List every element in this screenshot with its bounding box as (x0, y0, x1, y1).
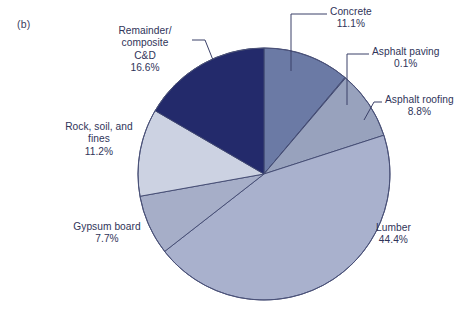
label-gypsum-board-value: 7.7% (59, 233, 155, 245)
pie-slices (138, 48, 390, 300)
label-asphalt-paving: Asphalt paving 0.1% (372, 46, 440, 71)
label-asphalt-roofing: Asphalt roofing 8.8% (385, 94, 454, 119)
label-asphalt-roofing-value: 8.8% (385, 106, 454, 118)
label-lumber: Lumber 44.4% (376, 222, 411, 247)
label-asphalt-paving-name: Asphalt paving (372, 46, 440, 58)
label-rock-soil-fines: Rock, soil, and fines 11.2% (47, 121, 151, 158)
label-gypsum-board-name: Gypsum board (59, 221, 155, 233)
label-remainder-value: 16.6% (96, 62, 194, 74)
label-remainder-line2: composite (96, 37, 194, 49)
label-concrete-value: 11.1% (330, 18, 372, 30)
label-asphalt-roofing-name: Asphalt roofing (385, 94, 454, 106)
label-lumber-value: 44.4% (376, 234, 411, 246)
label-gypsum-board: Gypsum board 7.7% (59, 221, 155, 246)
label-concrete: Concrete 11.1% (330, 6, 372, 31)
label-remainder-line3: C&D (96, 50, 194, 62)
label-rock-soil-fines-line2: fines (47, 133, 151, 145)
label-remainder-composite-cd: Remainder/ composite C&D 16.6% (96, 25, 194, 74)
label-rock-soil-fines-value: 11.2% (47, 146, 151, 158)
figure-panel-b: (b) Concrete 1 (0, 0, 473, 316)
label-remainder-line1: Remainder/ (96, 25, 194, 37)
label-lumber-name: Lumber (376, 222, 411, 234)
label-asphalt-paving-value: 0.1% (372, 58, 440, 70)
leader-line-remainder (192, 40, 213, 60)
label-rock-soil-fines-line1: Rock, soil, and (47, 121, 151, 133)
label-concrete-name: Concrete (330, 6, 372, 18)
